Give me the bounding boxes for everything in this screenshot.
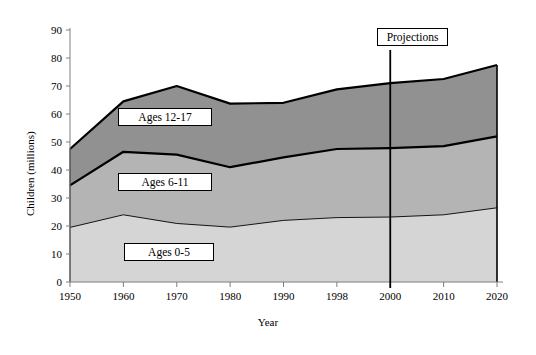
series-label-ages-6-11: Ages 6-11 xyxy=(118,173,212,191)
x-axis-tick-label: 2020 xyxy=(486,290,508,302)
series-label-ages-0-5: Ages 0-5 xyxy=(124,243,214,261)
y-axis-tick-label: 50 xyxy=(34,136,62,148)
x-axis-tick-label: 2000 xyxy=(379,290,401,302)
x-axis-tick-label: 1950 xyxy=(59,290,81,302)
y-axis-tick-label: 80 xyxy=(34,52,62,64)
x-axis-title: Year xyxy=(0,316,536,328)
y-axis-tick-label: 20 xyxy=(34,220,62,232)
x-axis-tick-label: 1990 xyxy=(273,290,295,302)
x-axis-tick-label: 2010 xyxy=(433,290,455,302)
y-axis-tick-label: 0 xyxy=(34,276,62,288)
y-axis-tick-label: 90 xyxy=(34,24,62,36)
y-axis-tick-label: 40 xyxy=(34,164,62,176)
x-axis-tick-label: 1960 xyxy=(112,290,134,302)
y-axis-tick-label: 60 xyxy=(34,108,62,120)
chart-container: Children (millions) Year 010203040506070… xyxy=(0,0,536,355)
y-axis-tick-label: 70 xyxy=(34,80,62,92)
series-label-ages-12-17: Ages 12-17 xyxy=(118,108,212,126)
x-axis-tick-label: 1998 xyxy=(326,290,348,302)
y-axis-tick-label: 10 xyxy=(34,248,62,260)
x-axis-tick-label: 1980 xyxy=(219,290,241,302)
x-axis-tick-label: 1970 xyxy=(166,290,188,302)
y-axis-tick-label: 30 xyxy=(34,192,62,204)
projections-annotation-label: Projections xyxy=(377,28,448,46)
